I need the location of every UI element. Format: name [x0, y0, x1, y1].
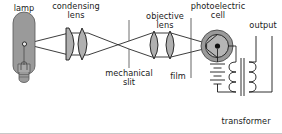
output-terminals	[256, 36, 272, 41]
label-output: output	[246, 21, 280, 30]
label-transformer: transformer	[213, 117, 279, 126]
diagram-canvas: lamp condensing lens mechanical slit obj…	[0, 0, 282, 134]
label-mechanical-slit: mechanical slit	[97, 69, 161, 88]
light-ray-bundle	[25, 33, 216, 57]
label-photoelectric-cell: photoelectric cell	[185, 2, 251, 21]
label-condensing-lens: condensing lens	[43, 2, 109, 21]
objective-lens	[150, 31, 174, 59]
label-lamp: lamp	[6, 4, 42, 13]
label-film: film	[167, 72, 189, 81]
battery	[210, 64, 225, 92]
photoelectric-cell	[201, 30, 236, 62]
lamp	[13, 12, 35, 83]
